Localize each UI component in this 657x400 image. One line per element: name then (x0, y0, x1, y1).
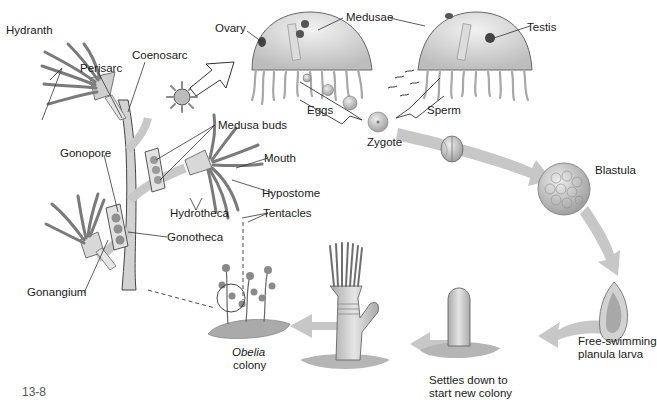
medusa-male (418, 12, 532, 100)
blastula-illustration (538, 163, 590, 215)
label-mouth: Mouth (264, 152, 296, 165)
label-colony: colony (233, 359, 266, 372)
label-medusa-buds: Medusa buds (218, 119, 287, 132)
cleavage-embryo (441, 136, 463, 162)
label-obelia: Obelia (232, 346, 265, 359)
hydranth-illustration (42, 44, 126, 120)
label-planula-line2: planula larva (578, 348, 643, 361)
settled-polyp-illustration (420, 288, 500, 358)
label-hydranth: Hydranth (6, 24, 53, 37)
label-gonangium: Gonangium (27, 286, 86, 299)
label-tentacles: Tentacles (263, 207, 312, 220)
planula-larva-illustration (600, 282, 628, 342)
label-settles-line2: start new colony (429, 387, 512, 400)
label-blastula: Blastula (595, 164, 636, 177)
label-hypostome: Hypostome (262, 187, 320, 200)
label-planula-line1: Free-swimming (578, 335, 657, 348)
figure-number: 13-8 (22, 385, 46, 399)
label-hydrotheca: Hydrotheca (170, 207, 229, 220)
released-medusa (167, 62, 234, 112)
obelia-colony-illustration (208, 264, 290, 339)
label-medusae: Medusae (346, 11, 393, 24)
label-perisarc: Perisarc (80, 62, 122, 75)
medusa-female (252, 12, 372, 104)
label-ovary: Ovary (215, 22, 246, 35)
label-testis: Testis (527, 21, 556, 34)
label-zygote: Zygote (367, 136, 402, 149)
label-eggs: Eggs (307, 104, 333, 117)
label-gonotheca: Gonotheca (167, 231, 223, 244)
label-settles-line1: Settles down to (429, 374, 508, 387)
gonangium-illustration (46, 194, 128, 270)
young-polyp-illustration (300, 243, 390, 369)
label-coenosarc: Coenosarc (132, 49, 188, 62)
label-sperm: Sperm (427, 104, 461, 117)
label-gonopore: Gonopore (60, 147, 111, 160)
